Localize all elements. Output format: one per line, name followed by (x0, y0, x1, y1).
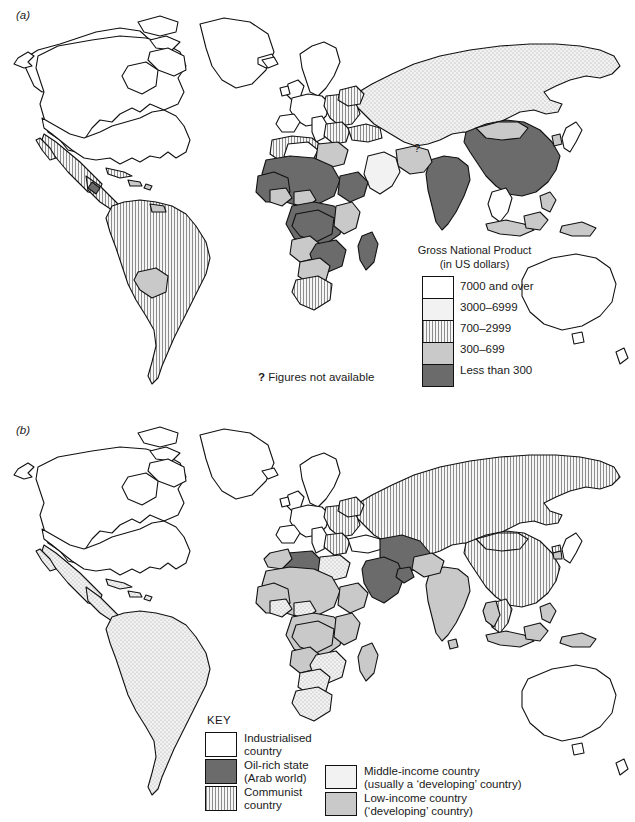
map-panel-b: (b) (0, 411, 635, 822)
region-philippines (540, 603, 556, 623)
key-item-communist: Communist country (205, 786, 312, 811)
legend-label-less-than-300: Less than 300 (460, 360, 534, 381)
key-item-middle-income: Middle-income country (usually a ‘develo… (325, 765, 521, 790)
region-japan (562, 533, 582, 563)
legend-swatch-column (422, 276, 454, 387)
region-borneo (524, 212, 548, 230)
world-map-gnp: ? (0, 0, 635, 411)
key-swatch-oil-rich (205, 759, 237, 784)
region-ethiopia-low (338, 583, 368, 613)
legend-note-figures-not-available: ? Figures not available (258, 371, 374, 383)
key-label-communist-line2: country (244, 799, 282, 811)
region-madagascar (358, 232, 378, 270)
region-scandinavia (300, 453, 340, 507)
key-swatch-middle-income (325, 765, 357, 789)
region-sea-indochina (488, 188, 512, 222)
question-mark-label: ? (414, 142, 420, 154)
legend-label-300-699: 300–699 (460, 339, 534, 360)
region-hispaniola (128, 180, 142, 186)
region-south-korea (553, 551, 562, 559)
region-alaska (14, 463, 34, 479)
region-turkey (348, 124, 382, 142)
region-saudi-arabia-oil (362, 557, 404, 603)
legend-label-700-2999: 700–2999 (460, 318, 534, 339)
region-ethiopia (338, 172, 368, 202)
key-label-middle-income-line2: (usually a ‘developing’ country) (364, 778, 521, 790)
region-sri-lanka (448, 639, 458, 649)
key-label-low-income-line2: (‘developing’ country) (364, 805, 473, 817)
key-label-oil-rich-line1: Oil-rich state (244, 759, 309, 771)
region-arctic-islands (138, 427, 178, 447)
region-iberia (276, 525, 300, 543)
region-cuba (106, 168, 132, 178)
region-philippines (540, 192, 556, 212)
key-label-industrialised-line2: country (244, 745, 282, 757)
legend-label-3000-6999: 3000–6999 (460, 297, 534, 318)
region-tasmania (572, 332, 584, 344)
world-map-development (0, 411, 635, 822)
region-turkey (348, 535, 382, 553)
region-south-america (106, 611, 210, 795)
region-greenland (200, 18, 274, 88)
region-cuba (106, 579, 132, 589)
panel-label-b: (b) (16, 424, 30, 436)
legend-swatch-700-2999 (423, 321, 453, 343)
legend-title: Gross National Product (in US dollars) (392, 244, 557, 271)
key-label-industrialised: Industrialised country (244, 732, 312, 757)
legend-label-column: 7000 and over 3000–6999 700–2999 300–699… (460, 276, 534, 381)
region-central-america (86, 176, 118, 210)
key-swatch-communist (205, 786, 237, 811)
legend-swatch-300-699 (423, 343, 453, 365)
map-panel-a: ? (a) Gross National Product (in US doll… (0, 0, 635, 411)
legend-key: KEY Industrialised country Oil-rich stat… (205, 714, 312, 813)
key-label-oil-rich: Oil-rich state (Arab world) (244, 759, 309, 784)
region-arctic-islands (138, 16, 178, 36)
panel-label-a: (a) (16, 9, 30, 21)
region-central-america (86, 587, 118, 621)
key-item-industrialised: Industrialised country (205, 732, 312, 757)
region-borneo (524, 623, 548, 641)
key-label-communist: Communist country (244, 786, 302, 811)
key-item-low-income: Low-income country (‘developing’ country… (325, 792, 521, 817)
region-korea (552, 134, 562, 146)
legend-swatch-3000-6999 (423, 299, 453, 321)
region-japan (562, 122, 582, 152)
region-madagascar-low (358, 643, 378, 681)
key-label-low-income: Low-income country (‘developing’ country… (364, 792, 473, 817)
region-australia (522, 665, 616, 741)
region-iberia (276, 114, 300, 132)
region-ireland (280, 497, 290, 507)
region-south-africa (292, 276, 332, 310)
region-india (426, 156, 470, 230)
region-greenland (200, 429, 274, 499)
region-afghanistan-pakistan (412, 553, 444, 577)
legend-note-text: Figures not available (268, 371, 374, 383)
legend-gnp: Gross National Product (in US dollars) 7… (392, 244, 592, 271)
region-ireland (280, 86, 290, 96)
region-new-guinea (560, 633, 596, 647)
legend-key-title: KEY (207, 714, 312, 726)
legend-title-line2: (in US dollars) (440, 258, 510, 270)
key-label-middle-income-line1: Middle-income country (364, 765, 480, 777)
legend-swatch-7000-and-over (423, 277, 453, 299)
region-india (426, 567, 470, 641)
key-label-communist-line1: Communist (244, 786, 302, 798)
key-item-oil-rich: Oil-rich state (Arab world) (205, 759, 312, 784)
key-label-low-income-line1: Low-income country (364, 792, 467, 804)
legend-title-line1: Gross National Product (418, 244, 532, 256)
region-new-zealand (616, 348, 628, 364)
region-arabia (364, 152, 400, 194)
legend-swatch-less-than-300 (423, 365, 453, 386)
region-antilles (144, 595, 152, 601)
key-swatch-low-income (325, 792, 357, 816)
legend-label-7000-and-over: 7000 and over (460, 276, 534, 297)
region-scandinavia (300, 42, 340, 96)
key-label-oil-rich-line2: (Arab world) (244, 772, 307, 784)
region-new-zealand (616, 759, 628, 775)
region-east-africa-low (334, 613, 360, 645)
key-swatch-industrialised (205, 732, 237, 757)
legend-key-secondary: Middle-income country (usually a ‘develo… (325, 765, 521, 819)
key-label-industrialised-line1: Industrialised (244, 732, 312, 744)
region-antilles (144, 184, 152, 190)
region-hispaniola (128, 591, 142, 597)
